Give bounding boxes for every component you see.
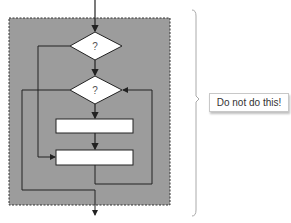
decision-2-label: ? [92,85,98,96]
warning-callout: Do not do this! [209,93,289,112]
process-2 [56,150,133,165]
process-1 [56,119,133,133]
brace [192,10,199,216]
decision-1-label: ? [92,41,98,52]
